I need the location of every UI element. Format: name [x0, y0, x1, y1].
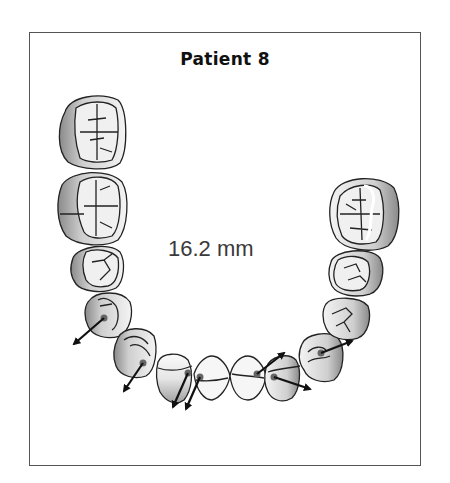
left-canine: [114, 329, 156, 378]
right-central-incisor: [230, 356, 266, 400]
left-molar-2: [58, 173, 127, 245]
dental-arch-diagram: [0, 0, 450, 483]
left-premolar-1: [71, 246, 123, 291]
right-molar-1: [330, 179, 399, 251]
right-premolar-1: [329, 251, 383, 296]
left-molar-1: [59, 96, 125, 169]
right-canine: [299, 334, 343, 382]
right-premolar-2: [323, 298, 370, 339]
